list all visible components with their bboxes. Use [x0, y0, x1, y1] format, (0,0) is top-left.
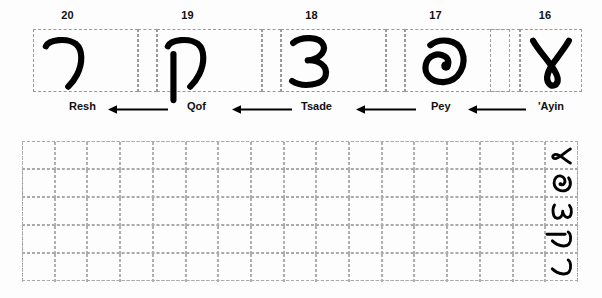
practice-cell[interactable]	[349, 226, 382, 254]
practice-cell[interactable]	[316, 142, 349, 170]
practice-row[interactable]	[22, 225, 578, 253]
practice-grid[interactable]	[22, 141, 578, 281]
practice-cell[interactable]	[120, 170, 153, 198]
practice-cell[interactable]	[447, 198, 480, 226]
practice-cell[interactable]	[218, 226, 251, 254]
practice-cell[interactable]	[414, 226, 447, 254]
practice-cell[interactable]	[120, 198, 153, 226]
letter-chart: 20Resh19Qof18Tsade17Pey16'Ayin	[0, 0, 602, 125]
practice-cell[interactable]	[349, 142, 382, 170]
practice-cell[interactable]	[186, 142, 219, 170]
practice-cell[interactable]	[349, 170, 382, 198]
chart-spacer-cell-2	[262, 29, 281, 92]
practice-cell[interactable]	[316, 226, 349, 254]
practice-cell[interactable]	[382, 142, 415, 170]
letter-name-ayin: 'Ayin	[538, 100, 564, 112]
practice-cell[interactable]	[218, 170, 251, 198]
practice-cell[interactable]	[382, 198, 415, 226]
practice-cell[interactable]	[153, 142, 186, 170]
practice-cell[interactable]	[316, 198, 349, 226]
practice-cell[interactable]	[414, 170, 447, 198]
chart-cell-resh	[33, 29, 138, 92]
practice-cell[interactable]	[218, 142, 251, 170]
practice-cell[interactable]	[513, 170, 546, 198]
practice-cell[interactable]	[447, 142, 480, 170]
practice-cell[interactable]	[22, 170, 55, 198]
practice-cell[interactable]	[87, 254, 120, 282]
practice-cell[interactable]	[382, 170, 415, 198]
letter-number-qof: 19	[168, 9, 208, 21]
practice-cell[interactable]	[55, 254, 88, 282]
letter-number-tsade: 18	[292, 9, 332, 21]
practice-cell[interactable]	[87, 142, 120, 170]
chart-cell-tsade	[281, 29, 386, 92]
practice-cell[interactable]	[414, 198, 447, 226]
practice-cell[interactable]	[87, 170, 120, 198]
practice-row[interactable]	[22, 253, 578, 281]
practice-cell[interactable]	[316, 170, 349, 198]
practice-cell[interactable]	[22, 142, 55, 170]
practice-cell[interactable]	[251, 226, 284, 254]
practice-cell[interactable]	[153, 170, 186, 198]
practice-cell[interactable]	[284, 226, 317, 254]
practice-cell[interactable]	[284, 198, 317, 226]
letter-name-tsade: Tsade	[301, 100, 332, 112]
practice-cell[interactable]	[513, 254, 546, 282]
practice-cell[interactable]	[55, 198, 88, 226]
practice-cell[interactable]	[447, 226, 480, 254]
arrow-left-icon-3	[356, 105, 416, 114]
practice-cell[interactable]	[186, 254, 219, 282]
practice-cell[interactable]	[186, 198, 219, 226]
practice-cell[interactable]	[284, 254, 317, 282]
practice-cell[interactable]	[447, 170, 480, 198]
practice-cell[interactable]	[87, 198, 120, 226]
practice-cell[interactable]	[382, 226, 415, 254]
practice-cell[interactable]	[120, 254, 153, 282]
practice-cell[interactable]	[284, 142, 317, 170]
practice-cell[interactable]	[218, 198, 251, 226]
practice-cell[interactable]	[480, 254, 513, 282]
chart-cell-ayin	[520, 29, 582, 92]
practice-cell[interactable]	[349, 254, 382, 282]
practice-cell[interactable]	[186, 170, 219, 198]
practice-row[interactable]	[22, 141, 578, 169]
practice-cell[interactable]	[251, 198, 284, 226]
practice-cell[interactable]	[414, 142, 447, 170]
practice-cell[interactable]	[153, 198, 186, 226]
practice-row[interactable]	[22, 197, 578, 225]
practice-cell[interactable]	[382, 254, 415, 282]
practice-cell[interactable]	[153, 226, 186, 254]
practice-cell[interactable]	[55, 142, 88, 170]
practice-cell[interactable]	[251, 170, 284, 198]
practice-cell[interactable]	[349, 198, 382, 226]
practice-cell[interactable]	[414, 254, 447, 282]
practice-cell[interactable]	[218, 254, 251, 282]
practice-cell[interactable]	[120, 226, 153, 254]
practice-cell[interactable]	[513, 198, 546, 226]
practice-cell[interactable]	[120, 142, 153, 170]
practice-cell[interactable]	[480, 226, 513, 254]
practice-cell[interactable]	[186, 226, 219, 254]
practice-cell[interactable]	[251, 254, 284, 282]
practice-cell[interactable]	[480, 170, 513, 198]
practice-cell[interactable]	[55, 226, 88, 254]
chart-cell-pey	[405, 29, 510, 92]
practice-cell[interactable]	[513, 226, 546, 254]
practice-cell[interactable]	[447, 254, 480, 282]
practice-row[interactable]	[22, 169, 578, 197]
practice-cell[interactable]	[284, 170, 317, 198]
practice-cell[interactable]	[480, 198, 513, 226]
practice-cell[interactable]	[87, 226, 120, 254]
chart-cell-qof	[157, 29, 262, 92]
model-glyph-tsade	[547, 198, 577, 226]
practice-cell[interactable]	[22, 226, 55, 254]
practice-cell[interactable]	[251, 142, 284, 170]
practice-cell[interactable]	[513, 142, 546, 170]
practice-cell[interactable]	[480, 142, 513, 170]
letter-number-resh: 20	[48, 9, 88, 21]
practice-cell[interactable]	[153, 254, 186, 282]
practice-cell[interactable]	[55, 170, 88, 198]
practice-cell[interactable]	[316, 254, 349, 282]
practice-cell[interactable]	[22, 198, 55, 226]
practice-cell[interactable]	[22, 254, 55, 282]
